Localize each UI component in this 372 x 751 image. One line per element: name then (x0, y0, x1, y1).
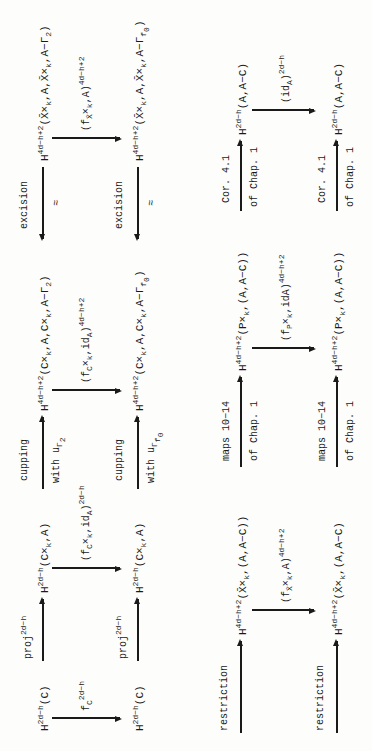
arrow-right (240, 141, 242, 211)
arrow-right (336, 141, 338, 211)
edge-bot-r2-maps: maps 10−14 (318, 401, 328, 461)
arrow-down (252, 610, 314, 612)
edge-bot-r2-cor: Cor. 4.1 (318, 155, 328, 203)
arrow-down (52, 390, 120, 392)
arrow-down (52, 568, 120, 570)
arrow-left (137, 167, 139, 239)
node-top-r2-n3: H4d−h+2(C×k,A,C×k,A−Γf0) (132, 270, 151, 411)
vert-top-v1: fC2d−h (78, 681, 94, 711)
edge-top-r1-iso: ≈ (52, 200, 62, 206)
node-top-r1-n3: H4d−h+2(C×k,A,C×k,A−Γ2) (37, 275, 53, 411)
edge-bot-r2-chap2: of Chap. 1 (346, 147, 356, 207)
vert-bot-v1: (fX̄×k,A)4d−h+2 (278, 529, 294, 603)
edge-bot-r2-restriction: restriction (316, 665, 326, 731)
edge-top-r2-cupping: cupping (115, 439, 125, 481)
node-bot-r1-n2: H4d−h+2(P×k,(A,A−C)) (235, 252, 251, 371)
arrow-right (42, 417, 44, 489)
node-bot-r2-n3: H2d−h(A,A−C) (331, 63, 345, 135)
arrow-down (52, 718, 120, 720)
vert-top-v4: (fX̄×k,A)4d−h+2 (78, 57, 94, 131)
edge-top-r1-cupping: cupping (20, 439, 30, 481)
edge-top-r2-iso: ≈ (147, 200, 157, 206)
arrow-down (252, 110, 314, 112)
arrow-right (240, 641, 242, 733)
arrow-down (252, 348, 314, 350)
vert-top-v3: (fC×k,idA)4d−h+2 (78, 298, 94, 383)
edge-bot-r1-cor: Cor. 4.1 (222, 155, 232, 203)
edge-top-r2-proj: proj2d−h (115, 616, 129, 659)
edge-top-r1-with: with uΓ2 (52, 437, 67, 483)
node-top-r1-n2: H2d−h(C×k,A) (37, 523, 53, 593)
rotated-diagram-page: H2d−h(C) proj2d−h H2d−h(C×k,A) cupping w… (0, 0, 372, 751)
edge-bot-r1-chap: of Chap. 1 (250, 401, 260, 461)
vert-bot-v2: (fP×k,idA)4d−h+2 (278, 255, 294, 341)
arrow-down (52, 138, 120, 140)
arrow-right (137, 417, 139, 489)
node-bot-r2-n2: H4d−h+2(P×k,(A,A−C)) (331, 252, 347, 371)
node-top-r1-n4: H4d−h+2(X̄×k,A,X̄×k,A−Γ2) (37, 25, 53, 161)
arrow-right (336, 641, 338, 733)
arrow-right (42, 599, 44, 661)
edge-top-r2-excision: excision (115, 181, 125, 229)
edge-top-r2-with: with uΓf0 (147, 433, 165, 483)
edge-bot-r1-chap2: of Chap. 1 (250, 147, 260, 207)
arrow-right (336, 377, 338, 467)
arrow-right (240, 377, 242, 467)
node-top-r2-n1: H2d−h(C) (132, 685, 146, 731)
node-top-r2-n2: H2d−h(C×k,A) (132, 523, 148, 593)
edge-bot-r2-chap: of Chap. 1 (346, 401, 356, 461)
arrow-left (42, 167, 44, 239)
edge-top-r1-excision: excision (20, 181, 30, 229)
vert-top-v2: (fC×k,idA)2d−h (78, 485, 94, 561)
node-bot-r1-n3: H2d−h(A,A−C) (235, 63, 249, 135)
arrow-right (137, 599, 139, 661)
node-top-r2-n4: H4d−h+2(X̄×k,A,X̄×k,A−Γf0) (132, 20, 151, 161)
node-bot-r2-n1: H4d−h+2(X̄×k,(A,A−C) (331, 522, 347, 635)
edge-top-r1-proj: proj2d−h (20, 616, 34, 659)
vert-bot-v3: (idA)2d−h (278, 55, 294, 103)
node-top-r1-n1: H2d−h(C) (37, 685, 51, 731)
edge-bot-r1-maps: maps 10−14 (222, 401, 232, 461)
node-bot-r1-n1: H4d−h+2(X̄×k,(A,A−C)) (235, 516, 251, 635)
edge-bot-r1-restriction: restriction (220, 665, 230, 731)
